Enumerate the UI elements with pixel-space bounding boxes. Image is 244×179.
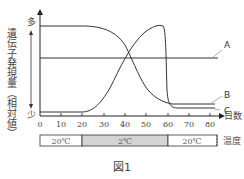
- series-a-leader: [212, 50, 222, 58]
- tick-80: 80: [205, 120, 215, 129]
- temp-seg-1: 20℃: [51, 137, 70, 146]
- tick-30: 30: [99, 120, 109, 129]
- series-c-label: C: [224, 106, 230, 116]
- tick-70: 70: [184, 120, 194, 129]
- tick-50: 50: [141, 120, 151, 129]
- tick-60: 60: [163, 120, 173, 129]
- y-low-label: 少: [27, 110, 36, 120]
- temp-label: 温度: [223, 135, 241, 146]
- y-axis-label: 遺伝子発現量（相対値）: [4, 28, 16, 138]
- tick-40: 40: [120, 120, 130, 129]
- tick-10: 10: [56, 120, 66, 129]
- figure-caption: 図1: [0, 158, 244, 174]
- series-c-line: [40, 25, 215, 112]
- tick-20: 20: [77, 120, 87, 129]
- series-b-line: [40, 26, 215, 104]
- series-b-leader: [210, 96, 222, 104]
- temp-seg-2: 2℃: [118, 137, 132, 146]
- series-a-label: A: [224, 40, 231, 50]
- temp-seg-3: 20℃: [182, 137, 201, 146]
- temperature-bar: 20℃ 2℃ 20℃ 温度: [40, 135, 241, 146]
- chart: 0 10 20 30 40 50 60 70 80 日数 多 少 A B C 2…: [0, 0, 244, 179]
- y-high-label: 多: [27, 16, 36, 27]
- tick-0: 0: [37, 120, 42, 129]
- series-b-label: B: [224, 90, 230, 100]
